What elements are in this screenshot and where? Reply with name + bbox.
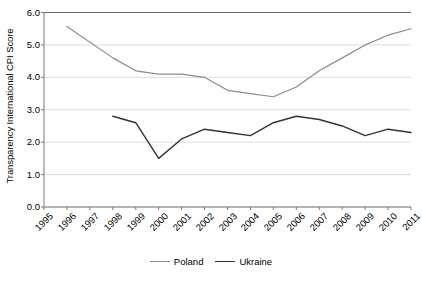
legend-line-icon [150,261,170,262]
cpi-line-chart: Transparency International CPI Score 0.0… [0,0,422,281]
legend-line-icon [215,261,235,262]
legend-item-ukraine[interactable]: Ukraine [215,256,272,267]
legend-label: Ukraine [239,256,272,267]
plot-area [0,0,422,281]
legend-item-poland[interactable]: Poland [150,256,204,267]
legend-label: Poland [174,256,204,267]
series-line-ukraine [113,116,411,158]
chart-legend: PolandUkraine [0,256,422,267]
series-line-poland [67,26,411,96]
